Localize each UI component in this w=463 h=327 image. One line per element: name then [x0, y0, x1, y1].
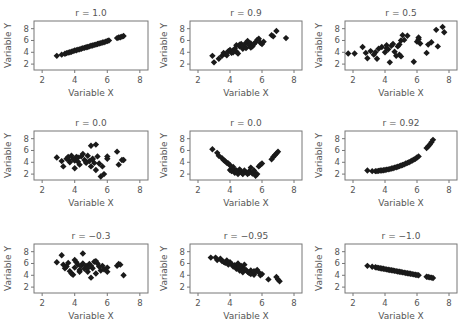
x-tick-label: 6	[259, 185, 264, 195]
panel-title: r = 0.0	[230, 118, 262, 128]
x-tick-label: 8	[446, 298, 451, 308]
x-tick-label: 4	[382, 185, 387, 195]
panel-title: r = 1.0	[75, 8, 107, 18]
diamond-marker-icon	[359, 44, 365, 50]
y-tick-label: 6	[24, 35, 29, 45]
diamond-marker-icon	[387, 59, 393, 65]
y-tick-label: 4	[335, 157, 340, 167]
diamond-marker-icon	[439, 24, 445, 30]
diamond-marker-icon	[54, 154, 60, 160]
diamond-marker-icon	[93, 167, 99, 173]
y-tick-label: 2	[24, 282, 29, 292]
y-axis-label: Variable Y	[314, 133, 324, 178]
x-tick-label: 8	[291, 185, 296, 195]
x-axis-label: Variable X	[378, 88, 423, 98]
x-axis-label: Variable X	[223, 311, 268, 321]
diamond-marker-icon	[345, 50, 351, 56]
y-tick-label: 4	[180, 47, 185, 57]
x-tick-label: 2	[39, 75, 44, 85]
data-points	[54, 250, 127, 281]
scatter-panel-5: r = 0.024682468Variable XVariable Y	[159, 118, 302, 208]
x-tick-label: 4	[72, 185, 77, 195]
scatter-panel-4: r = 0.024682468Variable XVariable Y	[3, 118, 148, 208]
diamond-marker-icon	[351, 50, 357, 56]
diamond-marker-icon	[93, 270, 99, 276]
diamond-marker-icon	[423, 50, 429, 56]
data-points	[209, 28, 289, 66]
x-tick-label: 6	[105, 298, 110, 308]
scatter-panel-9: r = −1.024682468Variable XVariable Y	[314, 231, 457, 321]
diamond-marker-icon	[273, 28, 279, 34]
y-tick-label: 8	[335, 247, 340, 257]
x-tick-label: 2	[350, 185, 355, 195]
x-tick-label: 6	[259, 298, 264, 308]
diamond-marker-icon	[411, 59, 417, 65]
x-tick-label: 2	[195, 75, 200, 85]
y-tick-label: 8	[180, 24, 185, 34]
x-axis-label: Variable X	[68, 198, 113, 208]
data-points	[345, 24, 447, 66]
y-tick-label: 6	[24, 145, 29, 155]
y-axis-label: Variable Y	[3, 23, 13, 68]
panel-title: r = −0.3	[72, 231, 111, 241]
x-tick-label: 8	[137, 75, 142, 85]
scatter-panel-2: r = 0.924682468Variable XVariable Y	[159, 8, 302, 98]
diamond-marker-icon	[93, 141, 99, 147]
diamond-marker-icon	[60, 163, 66, 169]
x-tick-label: 8	[137, 185, 142, 195]
scatter-panel-6: r = 0.9224682468Variable XVariable Y	[314, 118, 457, 208]
panel-title: r = −1.0	[382, 231, 421, 241]
data-points	[364, 263, 436, 282]
diamond-marker-icon	[433, 27, 439, 33]
y-tick-label: 8	[180, 247, 185, 257]
x-tick-label: 4	[227, 75, 232, 85]
y-tick-label: 4	[180, 270, 185, 280]
x-tick-label: 4	[227, 185, 232, 195]
y-tick-label: 6	[180, 35, 185, 45]
x-axis-label: Variable X	[223, 88, 268, 98]
y-tick-label: 8	[180, 134, 185, 144]
x-axis-label: Variable X	[378, 198, 423, 208]
y-tick-label: 8	[24, 134, 29, 144]
x-tick-label: 4	[382, 298, 387, 308]
y-tick-label: 2	[24, 59, 29, 69]
diamond-marker-icon	[72, 165, 78, 171]
scatter-panel-7: r = −0.324682468Variable XVariable Y	[3, 231, 148, 321]
x-tick-label: 6	[414, 75, 419, 85]
diamond-marker-icon	[364, 55, 370, 61]
diamond-marker-icon	[283, 35, 289, 41]
y-tick-label: 2	[180, 282, 185, 292]
scatter-panel-8: r = −0.9524682468Variable XVariable Y	[159, 231, 302, 321]
y-tick-label: 4	[180, 157, 185, 167]
diamond-marker-icon	[58, 252, 64, 258]
x-tick-label: 2	[195, 185, 200, 195]
y-tick-label: 2	[335, 169, 340, 179]
x-axis-label: Variable X	[68, 88, 113, 98]
scatterplot-grid: r = 1.024682468Variable XVariable Yr = 0…	[0, 0, 463, 327]
scatter-panel-3: r = 0.524682468Variable XVariable Y	[314, 8, 457, 98]
y-tick-label: 2	[180, 59, 185, 69]
y-axis-label: Variable Y	[3, 133, 13, 178]
y-tick-label: 4	[335, 270, 340, 280]
y-tick-label: 2	[180, 169, 185, 179]
x-tick-label: 4	[227, 298, 232, 308]
y-tick-label: 4	[24, 157, 29, 167]
y-tick-label: 6	[24, 258, 29, 268]
panel-title: r = −0.95	[224, 231, 269, 241]
plot-frame	[345, 244, 457, 293]
x-tick-label: 4	[72, 75, 77, 85]
x-tick-label: 6	[259, 75, 264, 85]
diamond-marker-icon	[115, 161, 121, 167]
y-tick-label: 8	[24, 247, 29, 257]
diamond-marker-icon	[88, 274, 94, 280]
x-tick-label: 2	[39, 185, 44, 195]
diamond-marker-icon	[209, 146, 215, 152]
diamond-marker-icon	[114, 148, 120, 154]
x-tick-label: 6	[105, 75, 110, 85]
diamond-marker-icon	[88, 143, 94, 149]
plot-frame	[34, 131, 148, 180]
x-axis-label: Variable X	[378, 311, 423, 321]
diamond-marker-icon	[265, 276, 271, 282]
x-tick-label: 2	[195, 298, 200, 308]
y-tick-label: 8	[24, 24, 29, 34]
